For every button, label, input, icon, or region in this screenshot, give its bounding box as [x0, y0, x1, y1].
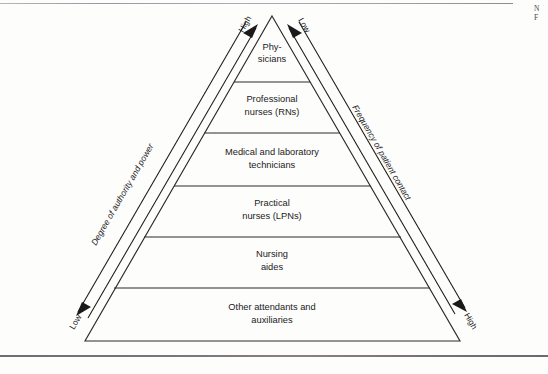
tier-technicians-line-2: technicians	[249, 160, 296, 170]
pyramid-outline	[85, 16, 460, 341]
tier-label-technicians: Medical and laboratory technicians	[225, 147, 319, 170]
left-axis-bottom-value: Low	[67, 312, 84, 331]
tier-lpns-line-1: Practical	[254, 198, 290, 208]
left-arrowhead-bottom	[76, 302, 91, 316]
tier-rns-line-2: nurses (RNs)	[245, 107, 300, 117]
tier-attendants-line-1: Other attendants and	[228, 302, 315, 312]
tier-label-aides: Nursing aides	[256, 249, 288, 272]
pyramid-diagram: Phy- sicians Professional nurses (RNs) M…	[0, 0, 548, 374]
tier-aides-line-2: aides	[261, 262, 284, 272]
tier-rns-line-1: Professional	[246, 94, 297, 104]
tier-lpns-line-2: nurses (LPNs)	[242, 211, 301, 221]
figure-page: N F Phy- sicians Professional nurses (RN…	[0, 0, 548, 374]
tier-label-rns: Professional nurses (RNs)	[245, 94, 300, 117]
tier-physicians-line-1: Phy-	[262, 42, 281, 52]
tier-technicians-line-1: Medical and laboratory	[225, 147, 319, 157]
tier-label-physicians: Phy- sicians	[258, 42, 287, 64]
right-axis-bottom-value: High	[462, 311, 479, 331]
right-arrowhead-bottom	[452, 299, 467, 312]
tier-attendants-line-2: auxiliaries	[251, 315, 293, 325]
tier-aides-line-1: Nursing	[256, 249, 288, 259]
left-axis-arrow	[76, 22, 258, 318]
right-axis-arrow	[287, 22, 467, 314]
tier-physicians-line-2: sicians	[258, 54, 287, 64]
tier-label-lpns: Practical nurses (LPNs)	[242, 198, 301, 221]
tier-label-attendants: Other attendants and auxiliaries	[228, 302, 315, 325]
